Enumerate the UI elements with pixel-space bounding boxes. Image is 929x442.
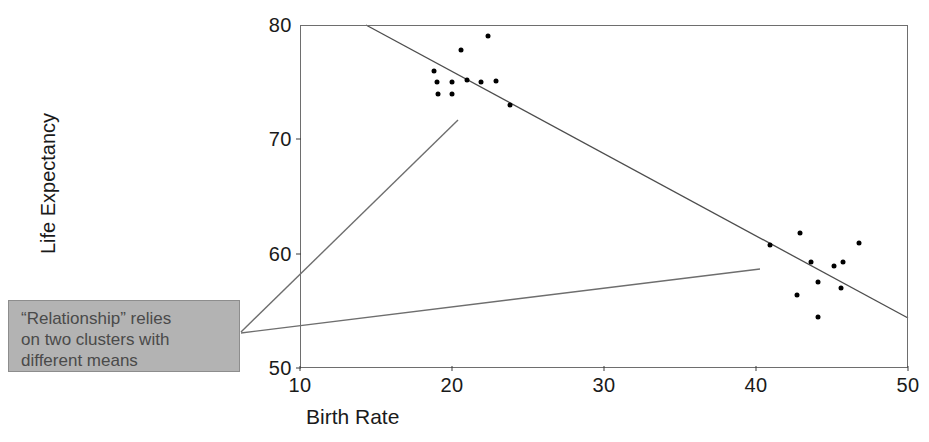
data-point [486,34,491,39]
x-tick-mark-20 [452,366,453,371]
x-tick-label-10: 10 [275,374,325,397]
data-point [808,259,813,264]
y-tick-mark-70 [296,139,301,140]
data-point [816,314,821,319]
data-point [434,80,439,85]
x-tick-mark-50 [908,366,909,371]
data-point [431,68,436,73]
annotation-line-2: on two clusters with [21,329,229,350]
y-axis-title: Life Expectancy [37,74,60,294]
annotation-line-3: different means [21,350,229,371]
y-tick-label-60: 60 [248,242,292,265]
data-point [767,242,772,247]
data-point [450,91,455,96]
data-point [839,285,844,290]
x-tick-mark-40 [756,366,757,371]
x-tick-label-30: 30 [579,374,629,397]
data-point [831,264,836,269]
x-tick-label-50: 50 [883,374,929,397]
y-tick-label-80: 80 [248,14,292,37]
y-tick-mark-60 [296,253,301,254]
data-point [459,48,464,53]
y-tick-label-70: 70 [248,128,292,151]
data-point [798,231,803,236]
data-point [507,103,512,108]
data-point [816,280,821,285]
scatter-plot-figure: Life Expectancy Birth Rate 50607080 1020… [0,0,929,442]
annotation-callout-box: “Relationship” relies on two clusters wi… [8,300,240,372]
data-point [436,91,441,96]
x-axis-title: Birth Rate [306,405,399,429]
data-point [465,77,470,82]
x-tick-mark-30 [604,366,605,371]
data-point [478,80,483,85]
x-tick-label-20: 20 [427,374,477,397]
data-point [857,241,862,246]
data-point [840,259,845,264]
x-tick-mark-10 [300,366,301,371]
data-point [450,80,455,85]
data-point [494,79,499,84]
data-point [795,292,800,297]
annotation-line-1: “Relationship” relies [21,308,229,329]
x-tick-label-40: 40 [731,374,781,397]
